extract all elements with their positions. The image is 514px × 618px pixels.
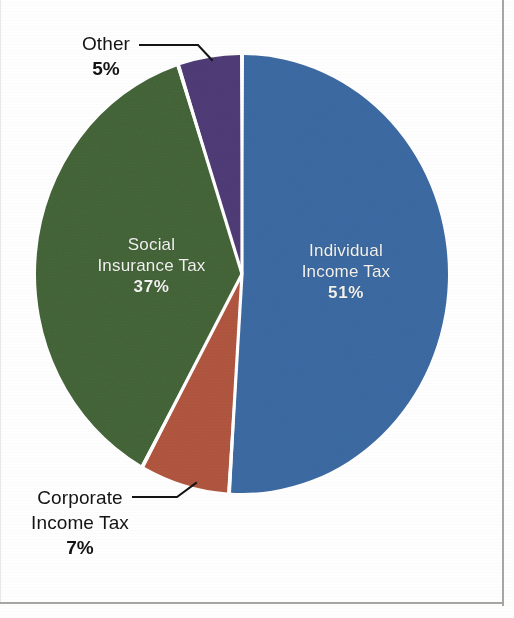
pie-chart-page: Individual Income Tax 51% Social Insuran… xyxy=(0,0,514,618)
slice-callout-line1: Corporate xyxy=(21,485,139,510)
slice-callout-line1: Other xyxy=(58,31,154,56)
slice-callout-line2: Income Tax xyxy=(21,510,139,535)
slice-callout-percent: 7% xyxy=(21,535,139,560)
slice-callout-other: Other 5% xyxy=(58,31,154,81)
slice-callout-corporate-income-tax: Corporate Income Tax 7% xyxy=(21,485,139,560)
pie-slice-individual-income-tax[interactable] xyxy=(231,55,448,493)
leader-line-corporate xyxy=(133,483,196,497)
slice-callout-percent: 5% xyxy=(58,56,154,81)
